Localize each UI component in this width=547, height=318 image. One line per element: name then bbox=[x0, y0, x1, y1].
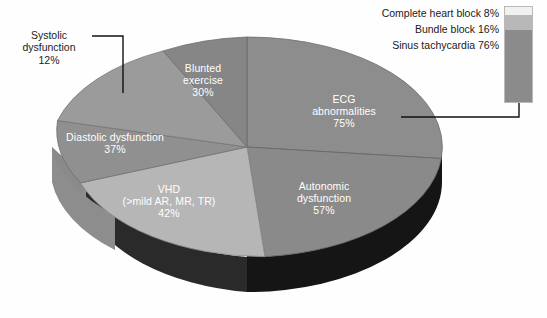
slice-label-vhd: VHD (>mild AR, MR, TR) 42% bbox=[102, 183, 236, 220]
slice-label-ecg-abnormalities: ECG abnormalities 75% bbox=[292, 93, 396, 130]
inset-bar-segment-bundle-block bbox=[505, 15, 532, 30]
slice-label-blunted-exercise: Blunted exercise 30% bbox=[160, 62, 246, 99]
legend-item-sinus-tachycardia: Sinus tachycardia 76% bbox=[392, 39, 499, 51]
pie-chart-figure: Blunted exercise 30% ECG abnormalities 7… bbox=[0, 0, 547, 318]
legend-item-bundle-block: Bundle block 16% bbox=[415, 23, 499, 35]
inset-bar-segment-complete-heart-block bbox=[505, 7, 532, 15]
slice-label-systolic-dysfunction: Systolic dysfunction 12% bbox=[6, 29, 92, 66]
slice-label-diastolic-dysfunction: Diastolic dysfunction 37% bbox=[48, 131, 182, 155]
slice-label-autonomic-dysfunction: Autonomic dysfunction 57% bbox=[266, 180, 382, 217]
inset-bar-segment-sinus-tachycardia bbox=[505, 30, 532, 102]
inset-stacked-bar bbox=[504, 6, 533, 103]
legend-item-complete-heart-block: Complete heart block 8% bbox=[382, 7, 499, 19]
